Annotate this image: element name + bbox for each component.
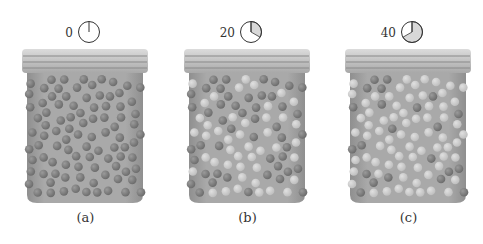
- time-label: 20: [205, 26, 235, 40]
- jar: [175, 47, 319, 207]
- clock-row: 40: [328, 20, 483, 44]
- clock-icon: [400, 20, 424, 44]
- panel-b: 20 (b): [167, 0, 328, 244]
- panel-caption: (b): [167, 210, 328, 225]
- time-label: 0: [43, 26, 73, 40]
- panel-caption: (a): [5, 210, 166, 225]
- panel-a: 0 (a): [5, 0, 166, 244]
- panel-caption: (c): [328, 210, 483, 225]
- jar-lid: [345, 49, 471, 73]
- clock-row: 0: [5, 20, 166, 44]
- jar-lid: [184, 49, 310, 73]
- jar-lid: [22, 49, 148, 73]
- clock-row: 20: [167, 20, 328, 44]
- panel-c: 40 (c): [328, 0, 483, 244]
- clock-icon: [239, 20, 263, 44]
- time-label: 40: [366, 26, 396, 40]
- jar: [336, 47, 480, 207]
- clock-icon: [77, 20, 101, 44]
- jar: [13, 47, 157, 207]
